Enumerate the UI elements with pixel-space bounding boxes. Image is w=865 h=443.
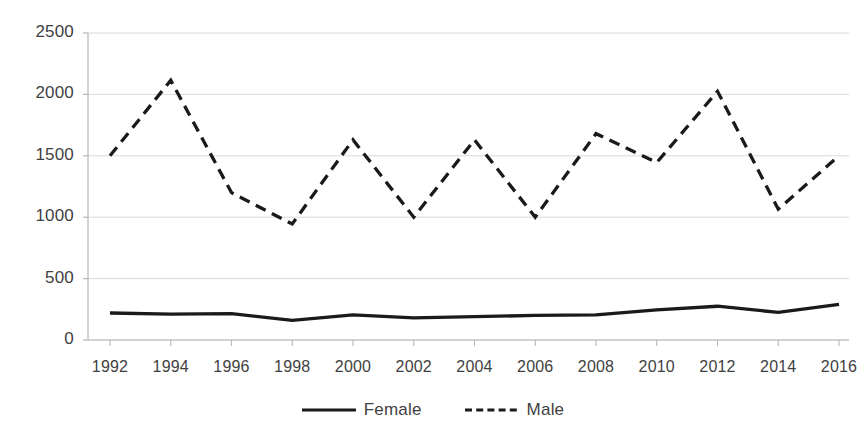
y-tick-label: 500	[0, 268, 74, 288]
x-tick-label: 1992	[80, 358, 140, 376]
x-axis-ticks	[110, 340, 839, 346]
y-axis-ticks	[83, 33, 88, 340]
x-tick-label: 2016	[809, 358, 865, 376]
x-tick-label: 2012	[688, 358, 748, 376]
x-tick-label: 1994	[141, 358, 201, 376]
data-series	[110, 80, 839, 320]
gridlines	[88, 33, 849, 340]
y-tick-label: 0	[0, 329, 74, 349]
legend-swatch-solid-icon	[301, 403, 357, 417]
legend-label-male: Male	[527, 400, 565, 420]
series-line-female	[110, 304, 839, 320]
y-tick-label: 1000	[0, 206, 74, 226]
x-tick-label: 1996	[202, 358, 262, 376]
y-tick-label: 2500	[0, 22, 74, 42]
legend-item-male: Male	[464, 400, 565, 420]
y-tick-label: 2000	[0, 83, 74, 103]
axis-lines	[88, 33, 849, 340]
line-chart: 05001000150020002500 1992199419961998200…	[0, 0, 865, 443]
x-tick-label: 2000	[323, 358, 383, 376]
chart-plot-area	[0, 0, 865, 443]
chart-legend: Female Male	[0, 400, 865, 420]
x-tick-label: 2010	[627, 358, 687, 376]
x-tick-label: 2014	[748, 358, 808, 376]
x-tick-label: 2008	[566, 358, 626, 376]
x-tick-label: 2006	[505, 358, 565, 376]
y-tick-label: 1500	[0, 145, 74, 165]
x-tick-label: 2004	[445, 358, 505, 376]
legend-item-female: Female	[301, 400, 422, 420]
legend-swatch-dashed-icon	[464, 403, 520, 417]
x-tick-label: 1998	[262, 358, 322, 376]
series-line-male	[110, 80, 839, 224]
legend-label-female: Female	[364, 400, 422, 420]
x-tick-label: 2002	[384, 358, 444, 376]
